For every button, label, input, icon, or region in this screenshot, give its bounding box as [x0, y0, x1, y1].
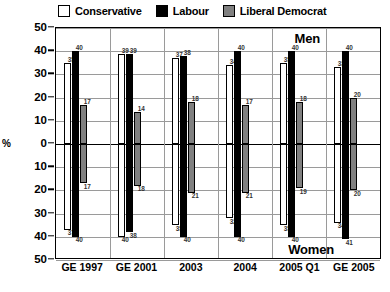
bar-men-liberal-democrat	[80, 105, 88, 144]
y-tick-top-40: 40	[3, 44, 47, 56]
bar-value-label: 40	[76, 45, 83, 51]
bar-women-labour	[288, 144, 296, 237]
bar-women-labour	[180, 144, 188, 237]
y-tick-top-10-mark	[48, 119, 54, 120]
bar-women-conservative	[64, 144, 72, 230]
y-tick-top-10: 10	[3, 114, 47, 126]
bar-value-label: 38	[130, 233, 137, 239]
bar-men-labour	[342, 51, 350, 144]
x-tick-ge-2001: GE 2001	[109, 261, 163, 281]
y-tick-bottom-10: 10	[3, 160, 47, 172]
legend-swatch-labour-icon	[156, 5, 168, 17]
y-tick-bottom-40: 40	[3, 230, 47, 242]
bar-women-conservative	[172, 144, 180, 225]
bar-group-2003: 373818354021	[164, 28, 218, 258]
bar-women-liberal-democrat	[350, 144, 358, 190]
legend-item-conservative: Conservative	[58, 5, 142, 17]
bar-value-label: 40	[184, 237, 191, 243]
panel-label-men: Men	[295, 31, 320, 46]
x-tick-2004: 2004	[218, 261, 272, 281]
bar-value-label: 14	[138, 106, 145, 112]
group-separator	[164, 28, 165, 258]
y-tick-bottom-20-mark	[48, 189, 54, 190]
bar-women-conservative	[334, 144, 342, 223]
bar-value-label: 41	[346, 240, 353, 246]
x-axis: GE 1997GE 2001200320042005 Q1GE 2005	[55, 261, 381, 281]
bar-value-label: 18	[192, 96, 199, 102]
y-tick-top-0-mark	[48, 142, 54, 143]
x-tick-ge-2005: GE 2005	[327, 261, 381, 281]
group-separator	[326, 28, 327, 258]
y-tick-top-0: 0	[3, 137, 47, 149]
y-tick-top-30: 30	[3, 67, 47, 79]
bar-women-liberal-democrat	[80, 144, 88, 183]
y-tick-top-30-mark	[48, 73, 54, 74]
y-tick-top-20: 20	[3, 91, 47, 103]
bar-men-conservative	[118, 54, 126, 144]
bar-men-labour	[126, 54, 134, 144]
bar-value-label: 20	[354, 191, 361, 197]
bar-value-label: 40	[76, 237, 83, 243]
bar-value-label: 40	[238, 45, 245, 51]
legend-item-liberal-democrat: Liberal Democrat	[223, 5, 327, 17]
bar-men-conservative	[226, 65, 234, 144]
bar-women-conservative	[280, 144, 288, 225]
bar-men-labour	[180, 56, 188, 144]
x-tick-ge-1997: GE 1997	[55, 261, 109, 281]
y-tick-bottom-50: 50	[3, 253, 47, 265]
y-tick-bottom-10-mark	[48, 165, 54, 166]
y-tick-bottom-30: 30	[3, 207, 47, 219]
bar-women-conservative	[118, 144, 126, 237]
legend-swatch-liberal-democrat-icon	[223, 5, 235, 17]
y-tick-top-40-mark	[48, 49, 54, 50]
group-separator	[110, 28, 111, 258]
x-tick-2005-q1: 2005 Q1	[272, 261, 326, 281]
bar-value-label: 19	[300, 189, 307, 195]
y-tick-bottom-30-mark	[48, 212, 54, 213]
bar-men-labour	[288, 51, 296, 144]
bar-men-conservative	[280, 63, 288, 144]
y-tick-top-50: 50	[3, 21, 47, 33]
legend-label-labour: Labour	[173, 5, 209, 17]
bar-value-label: 39	[130, 48, 137, 54]
bar-group-2004: 344017324021	[218, 28, 272, 258]
y-axis: % 504030201001020304050	[0, 27, 55, 259]
bar-women-labour	[72, 144, 80, 237]
bar-women-liberal-democrat	[296, 144, 304, 188]
bar-women-liberal-democrat	[242, 144, 250, 193]
y-tick-top-50-mark	[48, 26, 54, 27]
bar-value-label: 38	[184, 50, 191, 56]
bar-value-label: 40	[238, 237, 245, 243]
bar-group-2005-q1: 354018354019	[272, 28, 326, 258]
legend-swatch-conservative-icon	[58, 5, 70, 17]
bar-men-conservative	[64, 63, 72, 144]
bar-value-label: 18	[138, 186, 145, 192]
bar-value-label: 17	[84, 99, 91, 105]
bar-men-labour	[234, 51, 242, 144]
y-tick-top-20-mark	[48, 96, 54, 97]
group-separator	[272, 28, 273, 258]
bar-women-liberal-democrat	[134, 144, 142, 186]
bar-women-conservative	[226, 144, 234, 218]
bar-men-labour	[72, 51, 80, 144]
bar-men-conservative	[172, 58, 180, 144]
bar-group-ge-1997: 354017374017	[56, 28, 110, 258]
bar-value-label: 40	[346, 45, 353, 51]
bar-women-labour	[342, 144, 350, 239]
chart-legend: Conservative Labour Liberal Democrat	[58, 2, 388, 20]
x-tick-2003: 2003	[164, 261, 218, 281]
bar-men-liberal-democrat	[242, 105, 250, 144]
bar-value-label: 20	[354, 92, 361, 98]
bar-value-label: 17	[84, 184, 91, 190]
legend-item-labour: Labour	[156, 5, 209, 17]
group-separator	[218, 28, 219, 258]
bar-women-liberal-democrat	[188, 144, 196, 193]
bar-men-liberal-democrat	[350, 98, 358, 144]
chart-root: Conservative Labour Liberal Democrat % 5…	[0, 0, 390, 292]
y-tick-bottom-40-mark	[48, 235, 54, 236]
y-tick-bottom-20: 20	[3, 183, 47, 195]
bar-group-ge-2005: 334020344120	[326, 28, 380, 258]
bar-men-liberal-democrat	[134, 112, 142, 144]
bar-value-label: 21	[192, 193, 199, 199]
bar-women-labour	[126, 144, 134, 232]
